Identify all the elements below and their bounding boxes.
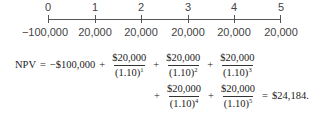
period-label: 1 <box>92 2 98 13</box>
discounted-term-5: $20,000 (1.10)5 <box>220 84 256 109</box>
term-numerator: $20,000 <box>166 84 202 96</box>
cash-flow-value: −100,000 <box>22 27 68 38</box>
timeline-tick <box>95 15 96 23</box>
cash-flow-value: 20,000 <box>171 27 205 38</box>
initial-investment: −$100,000 <box>50 60 95 71</box>
cash-flow-value: 20,000 <box>124 27 158 38</box>
period-label: 4 <box>231 2 237 13</box>
equals-sign: = <box>40 60 46 71</box>
discount-base: (1.10) <box>115 67 140 78</box>
exponent: 2 <box>194 66 197 73</box>
timeline-tick <box>48 15 49 23</box>
cash-flow-value: 20,000 <box>217 27 251 38</box>
plus-sign: + <box>153 60 159 71</box>
discount-base: (1.10) <box>170 98 195 109</box>
equals-sign: = <box>262 91 268 102</box>
term-numerator: $20,000 <box>220 84 256 96</box>
term-numerator: $20,000 <box>219 53 255 65</box>
cash-flow-value: 20,000 <box>78 27 112 38</box>
exponent: 4 <box>195 97 198 104</box>
plus-sign: + <box>154 91 160 102</box>
term-numerator: $20,000 <box>165 53 201 65</box>
plus-sign: + <box>207 60 213 71</box>
discounted-term-4: $20,000 (1.10)4 <box>166 84 202 109</box>
period-label: 2 <box>138 2 144 13</box>
discount-base: (1.10) <box>223 67 248 78</box>
discounted-term-2: $20,000 (1.10)2 <box>165 53 201 78</box>
term-denominator: (1.10)1 <box>114 65 145 79</box>
cash-flow-value: 20,000 <box>264 27 298 38</box>
npv-formula-line-1: NPV = −$100,000 + $20,000 (1.10)1 + $20,… <box>15 53 257 78</box>
discount-base: (1.10) <box>169 67 194 78</box>
timeline-tick <box>188 15 189 23</box>
term-denominator: (1.10)4 <box>169 96 200 110</box>
timeline-tick <box>280 15 281 23</box>
timeline-tick <box>234 15 235 23</box>
term-denominator: (1.10)5 <box>223 96 254 110</box>
npv-formula-line-2: + $20,000 (1.10)4 + $20,000 (1.10)5 = $2… <box>150 84 309 109</box>
period-label: 0 <box>45 2 51 13</box>
period-label: 3 <box>185 2 191 13</box>
exponent: 1 <box>140 66 143 73</box>
exponent: 5 <box>249 97 252 104</box>
discounted-term-3: $20,000 (1.10)3 <box>219 53 255 78</box>
term-denominator: (1.10)3 <box>222 65 253 79</box>
discounted-term-1: $20,000 (1.10)1 <box>111 53 147 78</box>
discount-base: (1.10) <box>224 98 249 109</box>
term-numerator: $20,000 <box>111 53 147 65</box>
npv-label: NPV <box>15 60 36 71</box>
exponent: 3 <box>248 66 251 73</box>
timeline-axis <box>48 19 281 20</box>
timeline-tick <box>141 15 142 23</box>
plus-sign: + <box>208 91 214 102</box>
period-label: 5 <box>278 2 284 13</box>
plus-sign: + <box>99 60 105 71</box>
npv-result: $24,184. <box>272 91 309 102</box>
term-denominator: (1.10)2 <box>168 65 199 79</box>
